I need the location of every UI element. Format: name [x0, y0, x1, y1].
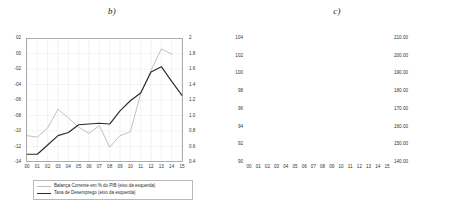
axis-tick-label: 04 [283, 165, 288, 170]
panel-b-legend: Balança Corrente em % do PIB (eixo da es… [33, 180, 193, 200]
axis-tick-label: 07 [311, 165, 316, 170]
axis-tick-label: 13 [366, 165, 371, 170]
axis-tick-label: 2 [189, 36, 192, 41]
axis-tick-label: 94 [238, 124, 243, 129]
axis-tick-label: 1.2 [189, 98, 195, 103]
axis-tick-label: -04 [14, 82, 21, 87]
axis-tick-label: 0.8 [189, 129, 195, 134]
axis-tick-label: -12 [14, 144, 21, 149]
axis-tick-label: 92 [238, 142, 243, 147]
axis-tick-label: 11 [348, 165, 353, 170]
axis-tick-label: 12 [148, 165, 153, 170]
axis-tick-label: 03 [274, 165, 279, 170]
panel-b-plot-area [26, 38, 183, 162]
axis-tick-label: 98 [238, 89, 243, 94]
legend-item-label: Taxa de Desemprego (eixo da esquerda) [54, 191, 136, 196]
axis-tick-label: 15 [179, 165, 184, 170]
legend-line-swatch-icon [37, 186, 51, 187]
panel-b-title: b) [0, 6, 224, 16]
panel-b-x-axis-ticks: 00010203040506070809101112131415 [26, 165, 183, 173]
panel-c-left-axis-ticks: 1041021009896949290 [225, 38, 246, 162]
axis-tick-label: 150.00 [394, 142, 408, 147]
axis-tick-label: 100 [235, 71, 243, 76]
axis-tick-label: 102 [235, 53, 243, 58]
axis-tick-label: 1.0 [189, 113, 195, 118]
axis-tick-label: 00 [246, 165, 251, 170]
axis-tick-label: 14 [375, 165, 380, 170]
axis-tick-label: -10 [14, 129, 21, 134]
panel-b-right-axis-ticks: 21.81.61.41.21.00.80.60.4 [186, 38, 216, 162]
axis-tick-label: 140.00 [394, 160, 408, 165]
chart-panel-c: c) 1041021009896949290 210.00200.00190.0… [225, 0, 449, 215]
panel-b-plot-svg [26, 38, 183, 162]
axis-tick-label: 04 [66, 165, 71, 170]
axis-tick-label: 02 [45, 165, 50, 170]
axis-tick-label: 07 [97, 165, 102, 170]
axis-tick-label: -08 [14, 113, 21, 118]
legend-line-swatch-icon [37, 193, 51, 194]
legend-item: Balança Corrente em % do PIB (eixo da es… [37, 183, 188, 190]
axis-tick-label: 02 [16, 36, 21, 41]
axis-tick-label: 05 [292, 165, 297, 170]
axis-tick-label: 190.00 [394, 71, 408, 76]
axis-tick-label: 200.00 [394, 53, 408, 58]
axis-tick-label: 08 [320, 165, 325, 170]
axis-tick-label: 00 [16, 51, 21, 56]
axis-tick-label: 08 [107, 165, 112, 170]
data-series-line [27, 67, 182, 155]
chart-panel-b: b) 0200-02-04-06-08-10-12-14 21.81.61.41… [0, 0, 224, 215]
panel-c-x-axis-ticks: 00010203040506070809101112131415 [248, 165, 388, 173]
axis-tick-label: 96 [238, 107, 243, 112]
axis-tick-label: 00 [24, 165, 29, 170]
axis-tick-label: 12 [357, 165, 362, 170]
axis-tick-label: 01 [256, 165, 261, 170]
panel-c-title: c) [225, 6, 449, 16]
axis-tick-label: 02 [265, 165, 270, 170]
panel-b-series [27, 49, 182, 154]
axis-tick-label: 10 [128, 165, 133, 170]
axis-tick-label: 05 [76, 165, 81, 170]
axis-tick-label: -02 [14, 67, 21, 72]
axis-tick-label: 210.00 [394, 36, 408, 41]
figure-dual-line-charts: b) 0200-02-04-06-08-10-12-14 21.81.61.41… [0, 0, 449, 215]
axis-tick-label: 0.6 [189, 144, 195, 149]
axis-tick-label: 104 [235, 36, 243, 41]
axis-tick-label: -06 [14, 98, 21, 103]
axis-tick-label: 15 [384, 165, 389, 170]
legend-item-label: Balança Corrente em % do PIB (eixo da es… [54, 184, 155, 189]
axis-tick-label: 13 [159, 165, 164, 170]
axis-tick-label: 170.00 [394, 107, 408, 112]
axis-tick-label: -14 [14, 160, 21, 165]
axis-tick-label: 14 [169, 165, 174, 170]
axis-tick-label: 10 [338, 165, 343, 170]
legend-item: Taxa de Desemprego (eixo da esquerda) [37, 190, 188, 197]
axis-tick-label: 11 [138, 165, 143, 170]
axis-tick-label: 06 [86, 165, 91, 170]
panel-b-left-axis-ticks: 0200-02-04-06-08-10-12-14 [0, 38, 24, 162]
axis-tick-label: 1.6 [189, 67, 195, 72]
axis-tick-label: 09 [329, 165, 334, 170]
axis-tick-label: 09 [117, 165, 122, 170]
axis-tick-label: 1.8 [189, 51, 195, 56]
axis-tick-label: 01 [35, 165, 40, 170]
axis-tick-label: 160.00 [394, 124, 408, 129]
axis-tick-label: 0.4 [189, 160, 195, 165]
axis-tick-label: 90 [238, 160, 243, 165]
panel-c-right-axis-ticks: 210.00200.00190.00180.00170.00160.00150.… [391, 38, 437, 162]
axis-tick-label: 1.4 [189, 82, 195, 87]
axis-tick-label: 03 [55, 165, 60, 170]
axis-tick-label: 180.00 [394, 89, 408, 94]
axis-tick-label: 06 [302, 165, 307, 170]
